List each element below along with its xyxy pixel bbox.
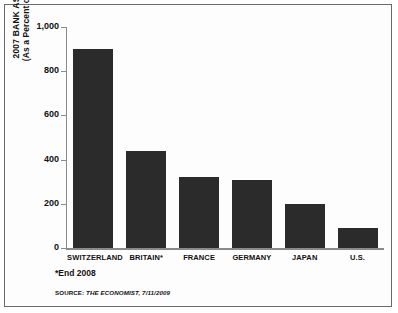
y-axis-tick-label: 400 (44, 154, 59, 164)
x-axis-category-label: BRITAIN* (120, 253, 173, 262)
footnote: *End 2008 (55, 268, 96, 278)
y-axis-title-line-2: (As a Percent of GDP) (22, 0, 32, 61)
y-axis-title: 2007 BANK ASSETS (As a Percent of GDP) (9, 0, 35, 91)
y-axis-tick-mark (61, 27, 66, 28)
bar-slot (331, 27, 384, 248)
y-axis-tick-label: 1,000 (36, 21, 59, 31)
bar-slot (67, 27, 120, 248)
bar-slot (226, 27, 279, 248)
x-axis-category-label: U.S. (331, 253, 384, 262)
y-axis-tick-mark (61, 115, 66, 116)
source-prefix: SOURCE: (55, 289, 84, 296)
bar (179, 177, 219, 248)
bar-slot (120, 27, 173, 248)
bar-series (67, 27, 384, 248)
y-axis-tick-mark (61, 248, 66, 249)
x-axis-category-label: JAPAN (278, 253, 331, 262)
bar-slot (173, 27, 226, 248)
source-text: THE ECONOMIST, 7/11/2009 (86, 289, 170, 296)
bar-slot (278, 27, 331, 248)
y-axis-tick-label: 800 (44, 65, 59, 75)
bar (126, 151, 166, 248)
x-axis-category-label: GERMANY (226, 253, 279, 262)
x-axis-category-label: SWITZERLAND (67, 253, 120, 262)
y-axis-tick-label: 200 (44, 198, 59, 208)
chart-figure: 2007 BANK ASSETS (As a Percent of GDP) 0… (4, 4, 392, 307)
y-axis-tick-label: 600 (44, 109, 59, 119)
y-axis-tick-mark (61, 71, 66, 72)
y-axis-tick-label: 0 (54, 242, 59, 252)
bar (73, 49, 113, 248)
bar (338, 228, 378, 248)
plot-area: 02004006008001,000 (66, 27, 384, 249)
y-axis-tick-mark (61, 160, 66, 161)
y-axis-tick-mark (61, 204, 66, 205)
bar (232, 180, 272, 249)
x-axis-category-label: FRANCE (173, 253, 226, 262)
source-line: SOURCE: THE ECONOMIST, 7/11/2009 (55, 289, 170, 296)
x-axis-line (66, 248, 384, 250)
x-axis-category-labels: SWITZERLANDBRITAIN*FRANCEGERMANYJAPANU.S… (67, 253, 384, 262)
bar (285, 204, 325, 248)
